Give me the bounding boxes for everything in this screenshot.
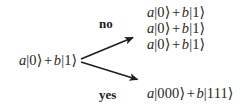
branch-label-no: no bbox=[99, 16, 113, 32]
out-yes-0-b: b bbox=[196, 85, 203, 101]
out-no-0-ket-a: |0⟩ bbox=[154, 4, 170, 20]
out-yes-0-ket-a: |000⟩ bbox=[154, 85, 185, 101]
out-no-2-ket-a: |0⟩ bbox=[154, 36, 170, 52]
output-no-line-1: a|0⟩+b|1⟩ bbox=[147, 4, 205, 21]
out-no-1-ket-a: |0⟩ bbox=[154, 20, 170, 36]
out-yes-0-ket-b: |111⟩ bbox=[204, 85, 234, 101]
output-yes-line-1: a|000⟩+b|111⟩ bbox=[147, 85, 234, 102]
out-yes-0-op: + bbox=[185, 85, 196, 101]
out-no-2-op: + bbox=[170, 36, 181, 52]
arrow-branch-yes bbox=[81, 62, 138, 80]
output-no-line-2: a|0⟩+b|1⟩ bbox=[147, 20, 205, 37]
quantum-branching-diagram: a|0⟩+b|1⟩ no yes a|0⟩+b|1⟩ a|0⟩+b|1⟩ a|0… bbox=[0, 0, 245, 111]
out-no-1-ket-b: |1⟩ bbox=[189, 20, 205, 36]
out-no-0-op: + bbox=[170, 4, 181, 20]
arrow-branch-no bbox=[81, 38, 133, 60]
branch-label-yes: yes bbox=[99, 87, 116, 103]
out-no-0-ket-b: |1⟩ bbox=[189, 4, 205, 20]
out-no-1-op: + bbox=[170, 20, 181, 36]
out-no-2-ket-b: |1⟩ bbox=[189, 36, 205, 52]
output-no-line-3: a|0⟩+b|1⟩ bbox=[147, 36, 205, 53]
